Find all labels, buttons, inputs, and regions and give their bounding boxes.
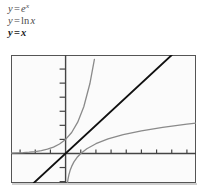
function-plot-svg xyxy=(11,55,196,183)
legend-exponential-exponent: x xyxy=(26,2,29,10)
legend-logarithm-argument: x xyxy=(31,15,36,26)
curves-group xyxy=(11,55,196,183)
legend-entry-identity: y=x xyxy=(8,28,128,39)
plot-area xyxy=(11,55,196,183)
figure-container: y=ex y=lnx y=x xyxy=(0,0,205,193)
legend-exponential-equals: = xyxy=(13,3,21,14)
legend-identity-equals: = xyxy=(13,27,21,38)
legend-entry-logarithm: y=lnx xyxy=(8,16,128,27)
curve-identity xyxy=(34,55,172,183)
legend-entry-exponential: y=ex xyxy=(8,4,128,15)
legend-logarithm-function: ln xyxy=(21,15,31,26)
equation-legend: y=ex y=lnx y=x xyxy=(8,4,128,40)
frame-drop-shadow xyxy=(12,183,197,185)
legend-logarithm-equals: = xyxy=(13,15,21,26)
legend-identity-argument: x xyxy=(21,27,26,38)
